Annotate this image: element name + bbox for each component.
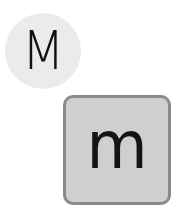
key-preview-character: M bbox=[22, 24, 65, 78]
key-label: m bbox=[86, 113, 147, 179]
keyboard-key-m[interactable]: m bbox=[63, 95, 171, 205]
key-preview-bubble: M bbox=[5, 13, 81, 89]
